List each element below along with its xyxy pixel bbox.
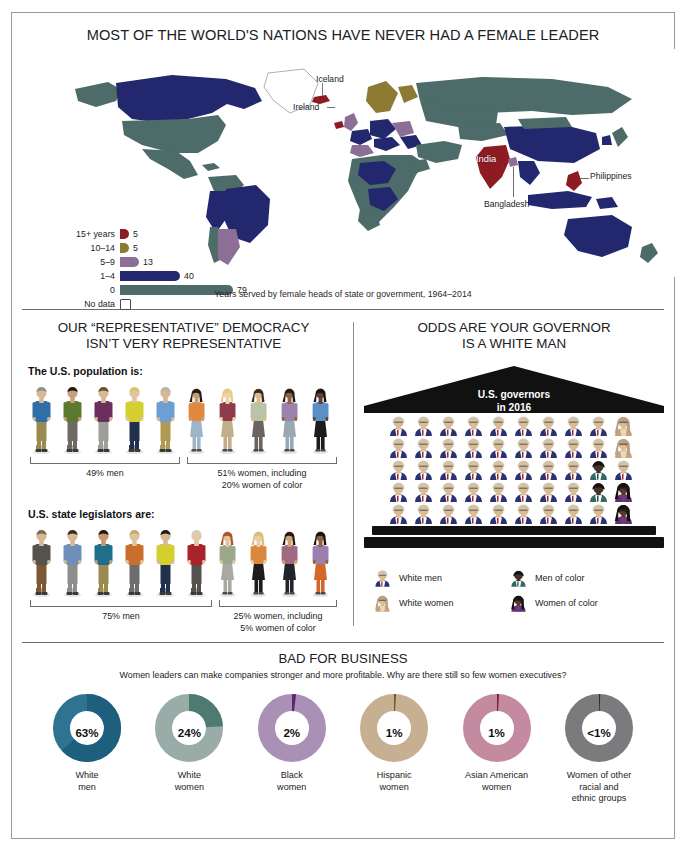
avatar-white-men-icon <box>436 458 461 480</box>
legend-row: 15+ years 5 <box>64 227 294 241</box>
donut-label-line2: men <box>38 782 136 794</box>
avatar-white-men-icon <box>411 414 436 436</box>
avatar-white-men-icon <box>461 480 486 502</box>
business-panel: BAD FOR BUSINESS Women leaders can make … <box>12 643 674 839</box>
avatar-women-of-color-icon <box>611 480 636 502</box>
population-captions: 49% men 51% women, including 20% women o… <box>26 466 341 490</box>
governor-legend-item-white-women: White women <box>372 593 508 612</box>
governor-legend-label: White women <box>399 598 454 608</box>
person-figure-man <box>88 383 119 455</box>
person-figure-woman <box>212 383 243 455</box>
avatar-men-of-color-icon <box>586 480 611 502</box>
democracy-panel: OUR “REPRESENTATIVE” DEMOCRACY ISN’T VER… <box>12 310 353 640</box>
avatar-men-of-color-icon <box>586 458 611 480</box>
donut-percentage: <1% <box>550 726 648 739</box>
donut-item: <1% Women of other racial and ethnic gro… <box>550 690 648 805</box>
governor-avatar-white-men <box>411 414 436 436</box>
donut-label: White women <box>140 770 238 793</box>
governor-avatar-women-of-color <box>611 502 636 524</box>
bracket-women <box>219 600 337 607</box>
governor-avatar-white-men <box>436 458 461 480</box>
population-women-caption-line1: 51% women, including <box>187 468 337 480</box>
governor-avatar-white-men <box>511 502 536 524</box>
legislators-women-caption-line2: 5% women of color <box>219 623 337 635</box>
avatar-white-men-icon <box>536 414 561 436</box>
avatar-white-men-icon <box>611 458 636 480</box>
legend-row: 1–4 40 <box>64 269 294 283</box>
avatar-white-men-icon <box>586 436 611 458</box>
map-label-iceland: Iceland <box>316 74 344 84</box>
person-figure-man <box>26 526 57 598</box>
person-figure-man <box>119 383 150 455</box>
person-man <box>150 383 181 455</box>
governor-legend-item-men-of-color: Men of color <box>508 568 644 587</box>
avatar-white-men-icon <box>436 414 461 436</box>
avatar-white-men-icon <box>461 458 486 480</box>
population-heading: The U.S. population is: <box>28 365 341 377</box>
bracket-women <box>187 457 337 464</box>
avatar-white-men-icon <box>461 502 486 524</box>
avatar-white-men-icon <box>386 458 411 480</box>
population-people-row <box>26 381 341 455</box>
governor-avatar-white-men <box>536 436 561 458</box>
person-figure-woman <box>243 383 274 455</box>
donut-item: 24% White women <box>140 690 238 805</box>
avatar-white-men-icon <box>411 436 436 458</box>
avatar-white-men-icon <box>586 414 611 436</box>
person-woman <box>305 526 336 598</box>
person-figure-woman <box>305 383 336 455</box>
governor-avatar-white-men <box>536 414 561 436</box>
governor-avatar-white-men <box>411 458 436 480</box>
governor-avatar-white-men <box>436 414 461 436</box>
legislators-heading: U.S. state legislators are: <box>28 508 341 520</box>
governor-avatar-men-of-color <box>586 458 611 480</box>
governor-legend-item-women-of-color: Women of color <box>508 593 644 612</box>
person-figure-woman <box>181 383 212 455</box>
governor-avatar-white-men <box>436 502 461 524</box>
pediment-text: U.S. governors in 2016 <box>364 388 664 414</box>
avatar-white-men-icon <box>436 502 461 524</box>
leader-line-bangladesh <box>513 167 514 197</box>
governor-avatar-white-men <box>461 458 486 480</box>
legislators-women-caption: 25% women, including 5% women of color <box>219 611 337 634</box>
donut-label-line2: women <box>243 782 341 794</box>
population-women-caption: 51% women, including 20% women of color <box>187 468 337 491</box>
building-base-upper <box>372 526 656 535</box>
governors-building: U.S. governors in 2016 <box>364 366 664 556</box>
person-man <box>57 383 88 455</box>
person-man <box>57 526 88 598</box>
avatar-white-men-icon <box>386 436 411 458</box>
governor-avatar-white-men <box>461 480 486 502</box>
governor-legend-label: Women of color <box>535 598 598 608</box>
legend-bar-15plus <box>120 229 129 239</box>
avatar-white-women-icon <box>611 436 636 458</box>
donut-percentage: 2% <box>243 726 341 739</box>
avatar-white-men-icon <box>411 458 436 480</box>
donut-label-line2: women <box>345 782 443 794</box>
governor-avatar-white-men <box>511 458 536 480</box>
person-woman <box>212 383 243 455</box>
person-figure-man <box>181 526 212 598</box>
population-men-caption: 49% men <box>30 468 180 480</box>
donut-item: 1% Asian American women <box>448 690 546 805</box>
legislators-captions: 75% men 25% women, including 5% women of… <box>26 609 341 633</box>
governor-avatar-white-men <box>561 502 586 524</box>
governor-avatar-white-men <box>561 480 586 502</box>
governor-avatar-white-men <box>536 458 561 480</box>
person-figure-woman <box>212 526 243 598</box>
avatar-white-women-icon <box>611 414 636 436</box>
world-map-panel: MOST OF THE WORLD'S NATIONS HAVE NEVER H… <box>12 13 674 309</box>
person-man <box>26 526 57 598</box>
business-title: BAD FOR BUSINESS <box>12 651 674 666</box>
governor-avatar-white-men <box>561 414 586 436</box>
donut-percentage: 1% <box>345 726 443 739</box>
legend-row: 10–14 5 <box>64 241 294 255</box>
legend-bar-5-9 <box>120 257 139 267</box>
donut-percentage: 1% <box>448 726 546 739</box>
donut-label-line1: Asian American <box>448 770 546 782</box>
person-woman <box>212 526 243 598</box>
governor-avatar-white-men <box>386 480 411 502</box>
person-figure-woman <box>305 526 336 598</box>
governor-avatar-white-men <box>411 480 436 502</box>
person-man <box>88 526 119 598</box>
